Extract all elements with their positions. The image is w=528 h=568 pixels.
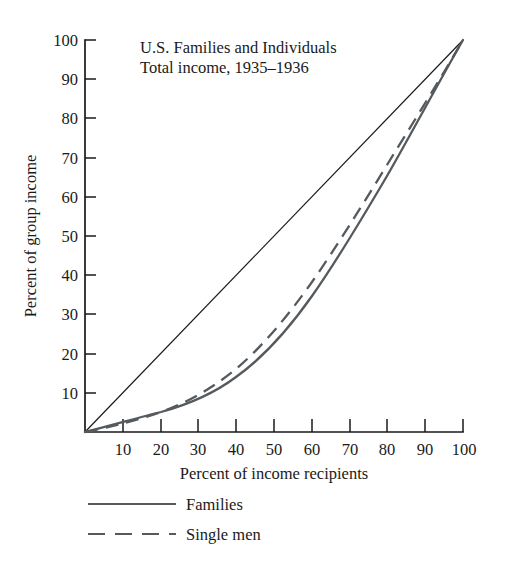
x-tick-label-90: 90	[417, 440, 434, 459]
chart-title-line-2: Total income, 1935–1936	[140, 58, 309, 77]
x-axis-title: Percent of income recipients	[180, 464, 368, 483]
chart-title-line-1: U.S. Families and Individuals	[140, 38, 337, 57]
x-tick-label-30: 30	[190, 440, 207, 459]
y-tick-label-100: 100	[53, 31, 78, 50]
chart-title-block: U.S. Families and Individuals Total inco…	[140, 38, 337, 77]
y-axis-title: Percent of group income	[21, 155, 40, 318]
y-tick-label-40: 40	[62, 266, 79, 285]
x-tick-label-100: 100	[452, 440, 477, 459]
y-tick-label-30: 30	[62, 305, 79, 324]
y-tick-label-50: 50	[62, 227, 79, 246]
x-tick-label-50: 50	[266, 440, 283, 459]
y-tick-label-70: 70	[62, 149, 79, 168]
x-tick-label-60: 60	[304, 440, 321, 459]
y-tick-label-60: 60	[62, 188, 79, 207]
x-tick-label-40: 40	[228, 440, 245, 459]
y-tick-label-20: 20	[62, 345, 79, 364]
y-tick-label-80: 80	[62, 109, 79, 128]
chart-svg: 100 90 80 70 60 50 40 30 20 10 10 20 30 …	[0, 0, 528, 568]
x-tick-label-80: 80	[379, 440, 396, 459]
legend-label-families: Families	[186, 495, 243, 514]
x-tick-label-10: 10	[115, 440, 132, 459]
y-tick-label-90: 90	[62, 70, 79, 89]
legend-label-single-men: Single men	[186, 525, 261, 544]
y-tick-label-10: 10	[62, 384, 79, 403]
x-tick-label-20: 20	[153, 440, 170, 459]
lorenz-curve-figure: 100 90 80 70 60 50 40 30 20 10 10 20 30 …	[0, 0, 528, 568]
x-tick-label-70: 70	[342, 440, 359, 459]
